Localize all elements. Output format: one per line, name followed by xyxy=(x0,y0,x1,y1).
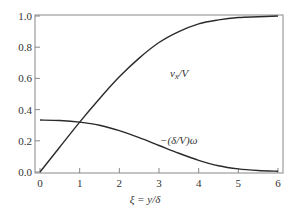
x-axis-ticks: 0123456 xyxy=(37,168,281,189)
curve-vx-over-v xyxy=(40,16,278,172)
y-axis-ticks: 0.00.20.40.60.81.0 xyxy=(18,10,40,178)
y-tick-label: 1.0 xyxy=(18,10,32,22)
y-tick-label: 0.0 xyxy=(18,166,32,178)
chart: 0123456 0.00.20.40.60.81.0 vx/V −(δ/V)ω … xyxy=(0,0,298,214)
x-tick-label: 4 xyxy=(196,177,202,189)
y-tick-label: 0.4 xyxy=(18,104,32,116)
curves xyxy=(40,16,278,172)
curve-label-vorticity: −(δ/V)ω xyxy=(160,134,198,147)
x-tick-label: 0 xyxy=(37,177,43,189)
x-axis-title: ξ = y/δ xyxy=(130,193,162,206)
x-tick-label: 1 xyxy=(77,177,83,189)
x-tick-label: 5 xyxy=(236,177,242,189)
plot-frame xyxy=(35,15,283,173)
y-tick-label: 0.6 xyxy=(18,72,32,84)
y-tick-label: 0.2 xyxy=(18,135,32,147)
curve-label-vx-over-v: vx/V xyxy=(170,67,190,81)
x-tick-label: 2 xyxy=(117,177,123,189)
y-tick-label: 0.8 xyxy=(18,41,32,53)
x-tick-label: 6 xyxy=(275,177,281,189)
x-tick-label: 3 xyxy=(156,177,162,189)
